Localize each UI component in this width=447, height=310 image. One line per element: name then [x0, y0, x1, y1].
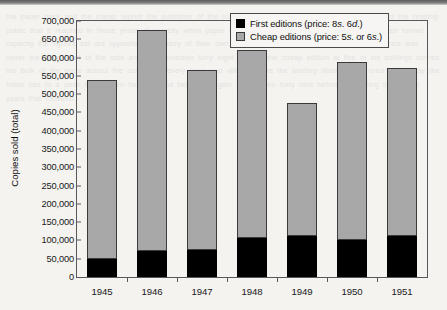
chart-legend: First editions (price: 8s. 6d.)Cheap edi… — [230, 13, 389, 48]
bar-segment-first-editions — [287, 236, 317, 277]
bar-segment-cheap-editions — [187, 70, 217, 250]
legend-label: First editions (price: 8s. 6d.) — [250, 18, 363, 29]
y-axis-tick-mark — [77, 94, 81, 95]
x-axis-tick-label: 1947 — [192, 286, 213, 297]
x-axis-tick-label: 1950 — [342, 286, 363, 297]
y-tick-text: 0 — [69, 272, 77, 282]
y-axis-tick-label: 300,000 — [41, 162, 77, 172]
x-axis-tick-mark — [177, 277, 178, 282]
y-tick-text: 500,000 — [41, 89, 77, 99]
y-axis-tick-mark — [77, 75, 81, 76]
y-axis-tick-mark — [77, 130, 81, 131]
y-axis-tick-label: 100,000 — [41, 235, 77, 245]
y-tick-text: 400,000 — [41, 126, 77, 136]
y-tick-text: 450,000 — [41, 107, 77, 117]
y-axis-tick-mark — [77, 112, 81, 113]
legend-item: Cheap editions (price: 5s. or 6s.) — [236, 30, 382, 43]
y-axis-tick-label: 350,000 — [41, 144, 77, 154]
y-axis-tick-label: 650,000 — [41, 34, 77, 44]
x-axis-tick-label: 1951 — [392, 286, 413, 297]
y-axis-tick-label: 600,000 — [41, 53, 77, 63]
y-axis-tick-label: 0 — [69, 272, 77, 282]
bar-segment-cheap-editions — [337, 62, 367, 240]
x-axis-tick-mark — [227, 277, 228, 282]
bar-stack — [187, 21, 217, 277]
bar-segment-first-editions — [187, 250, 217, 277]
y-axis-label: Copies sold (total) — [9, 109, 20, 186]
x-axis-tick-label: 1948 — [242, 286, 263, 297]
y-tick-text: 50,000 — [46, 254, 77, 264]
bar-segment-first-editions — [87, 259, 117, 277]
bar-segment-first-editions — [337, 240, 367, 277]
y-axis-tick-label: 150,000 — [41, 217, 77, 227]
bar-stack — [87, 21, 117, 277]
y-tick-text: 200,000 — [41, 199, 77, 209]
x-axis-tick-label: 1946 — [142, 286, 163, 297]
y-axis-tick-label: 500,000 — [41, 89, 77, 99]
y-axis-tick-label: 450,000 — [41, 107, 77, 117]
x-axis-tick-label: 1945 — [92, 286, 113, 297]
y-axis-tick-mark — [77, 39, 81, 40]
legend-item: First editions (price: 8s. 6d.) — [236, 17, 382, 30]
y-axis-tick-label: 50,000 — [46, 254, 77, 264]
bar-stack — [387, 21, 417, 277]
y-axis-tick-mark — [77, 258, 81, 259]
x-axis-tick-mark — [277, 277, 278, 282]
x-axis-tick-mark — [127, 277, 128, 282]
legend-swatch-cheap-editions — [236, 32, 245, 41]
y-axis-tick-mark — [77, 21, 81, 22]
y-axis-tick-mark — [77, 185, 81, 186]
y-tick-text: 350,000 — [41, 144, 77, 154]
y-axis-tick-label: 700,000 — [41, 16, 77, 26]
y-tick-text: 600,000 — [41, 53, 77, 63]
bar-segment-cheap-editions — [137, 30, 167, 251]
y-axis-tick-mark — [77, 149, 81, 150]
y-tick-text: 700,000 — [41, 16, 77, 26]
plot-area: 700,000650,000600,000550,000500,000450,0… — [77, 21, 427, 277]
y-axis-tick-label: 200,000 — [41, 199, 77, 209]
y-axis-tick-label: 550,000 — [41, 71, 77, 81]
stacked-bar-chart: Copies sold (total) 700,000650,000600,00… — [0, 0, 447, 310]
y-tick-text: 550,000 — [41, 71, 77, 81]
bar-segment-cheap-editions — [237, 50, 267, 238]
legend-label: Cheap editions (price: 5s. or 6s.) — [250, 31, 382, 42]
bar-segment-first-editions — [387, 236, 417, 277]
y-axis-tick-label: 250,000 — [41, 181, 77, 191]
x-axis-tick-label: 1949 — [292, 286, 313, 297]
y-axis-tick-mark — [77, 203, 81, 204]
y-tick-text: 650,000 — [41, 34, 77, 44]
bar-stack — [137, 21, 167, 277]
y-axis-tick-mark — [77, 57, 81, 58]
bar-segment-first-editions — [137, 251, 167, 277]
y-axis-tick-mark — [77, 167, 81, 168]
bar-stack — [237, 21, 267, 277]
bar-segment-first-editions — [237, 238, 267, 277]
x-axis-tick-mark — [377, 277, 378, 282]
bar-segment-cheap-editions — [287, 103, 317, 237]
bar-stack — [287, 21, 317, 277]
y-tick-text: 150,000 — [41, 217, 77, 227]
y-axis-tick-mark — [77, 222, 81, 223]
bar-segment-cheap-editions — [387, 68, 417, 236]
y-axis-tick-mark — [77, 240, 81, 241]
legend-swatch-first-editions — [236, 19, 245, 28]
y-tick-text: 100,000 — [41, 235, 77, 245]
y-axis-tick-label: 400,000 — [41, 126, 77, 136]
bar-segment-cheap-editions — [87, 80, 117, 259]
y-tick-text: 250,000 — [41, 181, 77, 191]
bar-stack — [337, 21, 367, 277]
y-tick-text: 300,000 — [41, 162, 77, 172]
x-axis-tick-mark — [327, 277, 328, 282]
